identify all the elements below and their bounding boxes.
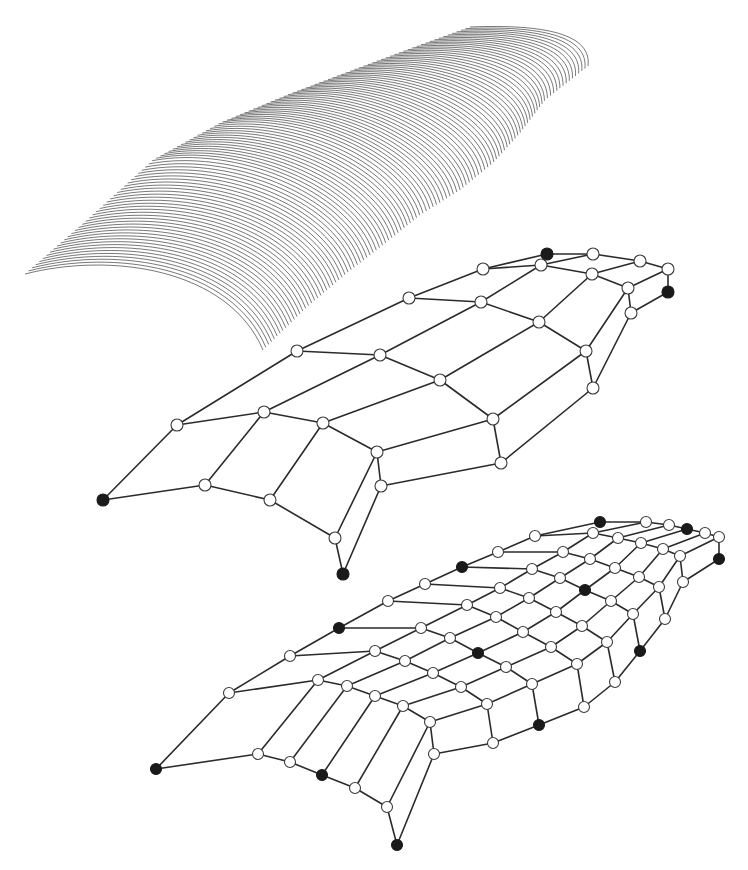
fine-mesh-control-point — [634, 572, 645, 583]
fine-mesh-control-point — [610, 563, 621, 574]
fine-mesh-control-point — [400, 656, 411, 667]
fine-mesh-control-point — [555, 573, 566, 584]
fine-mesh-control-point-filled — [317, 770, 328, 781]
fine-mesh-control-point — [350, 783, 361, 794]
coarse-mesh-control-point — [291, 345, 303, 357]
fine-mesh-control-point — [613, 533, 624, 544]
coarse-mesh-control-point — [495, 457, 507, 469]
coarse-mesh-control-point-filled — [541, 248, 553, 260]
coarse-mesh-control-point — [374, 349, 386, 361]
fine-mesh-control-point — [493, 547, 504, 558]
fine-mesh-control-point — [383, 596, 394, 607]
coarse-mesh-control-point — [199, 479, 211, 491]
coarse-mesh-control-point — [535, 259, 547, 271]
fine-mesh-control-point-filled — [580, 585, 591, 596]
fine-mesh-control-point — [579, 702, 590, 713]
fine-mesh-control-point — [678, 577, 689, 588]
coarse-mesh-control-point-filled — [337, 568, 349, 580]
fine-mesh-control-point — [527, 564, 538, 575]
fine-mesh-control-point-filled — [151, 764, 162, 775]
fine-mesh-control-point — [606, 596, 617, 607]
coarse-mesh-control-point — [587, 382, 599, 394]
coarse-mesh-control-point — [375, 480, 387, 492]
coarse-mesh-control-point — [587, 248, 599, 260]
figure-background — [0, 0, 748, 870]
coarse-mesh-control-point — [403, 292, 415, 304]
fine-mesh-control-point — [588, 528, 599, 539]
fine-mesh-control-point — [610, 677, 621, 688]
fine-mesh-control-point — [551, 607, 562, 618]
fine-mesh-control-point-filled — [392, 840, 403, 851]
fine-mesh-control-point — [462, 600, 473, 611]
coarse-mesh-control-point — [371, 446, 383, 458]
coarse-mesh-control-point-filled — [662, 286, 674, 298]
fine-mesh-control-point — [285, 651, 296, 662]
ruled-surface-diagram — [0, 0, 748, 870]
fine-mesh-control-point — [518, 627, 529, 638]
coarse-mesh-control-point — [477, 263, 489, 275]
fine-mesh-control-point — [628, 609, 639, 620]
fine-mesh-control-point — [428, 668, 439, 679]
fine-mesh-control-point — [658, 544, 669, 555]
fine-mesh-control-point — [370, 646, 381, 657]
fine-mesh-control-point — [491, 612, 502, 623]
coarse-mesh-control-point — [634, 255, 646, 267]
fine-mesh-control-point — [558, 547, 569, 558]
fine-mesh-control-point — [675, 551, 686, 562]
fine-mesh-control-point — [700, 528, 711, 539]
fine-mesh-control-point — [664, 520, 675, 531]
fine-mesh-control-point — [416, 623, 427, 634]
fine-mesh-control-point — [456, 682, 467, 693]
coarse-mesh-control-point — [329, 532, 341, 544]
fine-mesh-control-point — [370, 691, 381, 702]
fine-mesh-control-point — [445, 633, 456, 644]
fine-mesh-control-point-filled — [714, 554, 725, 565]
coarse-mesh-control-point — [580, 345, 592, 357]
fine-mesh-control-point — [602, 637, 613, 648]
fine-mesh-control-point — [313, 675, 324, 686]
fine-mesh-control-point — [641, 517, 652, 528]
fine-mesh-control-point — [420, 579, 431, 590]
fine-mesh-control-point-filled — [334, 623, 345, 634]
fine-mesh-control-point-filled — [595, 517, 606, 528]
fine-mesh-control-point — [636, 538, 647, 549]
fine-mesh-control-point — [572, 659, 583, 670]
fine-mesh-control-point — [425, 717, 436, 728]
fine-mesh-control-point — [342, 681, 353, 692]
coarse-mesh-control-point — [533, 316, 545, 328]
coarse-mesh-control-point — [475, 296, 487, 308]
coarse-mesh-control-point — [171, 419, 183, 431]
fine-mesh-control-point — [546, 642, 557, 653]
fine-mesh-control-point-filled — [473, 648, 484, 659]
coarse-mesh-control-point — [487, 413, 499, 425]
fine-mesh-control-point — [224, 688, 235, 699]
coarse-mesh-control-point — [258, 406, 270, 418]
fine-mesh-control-point — [488, 738, 499, 749]
fine-mesh-control-point — [714, 532, 725, 543]
fine-mesh-control-point — [654, 582, 665, 593]
fine-mesh-control-point — [482, 699, 493, 710]
fine-mesh-control-point — [495, 583, 506, 594]
fine-mesh-control-point — [524, 593, 535, 604]
fine-mesh-control-point — [382, 802, 393, 813]
fine-mesh-control-point — [253, 749, 264, 760]
coarse-mesh-control-point-filled — [97, 494, 109, 506]
fine-mesh-control-point-filled — [682, 524, 693, 535]
coarse-mesh-control-point — [662, 263, 674, 275]
fine-mesh-control-point — [530, 531, 541, 542]
fine-mesh-control-point — [577, 621, 588, 632]
fine-mesh-control-point-filled — [635, 646, 646, 657]
fine-mesh-control-point — [398, 701, 409, 712]
coarse-mesh-control-point — [317, 417, 329, 429]
fine-mesh-control-point — [501, 662, 512, 673]
fine-mesh-control-point — [585, 554, 596, 565]
fine-mesh-control-point — [527, 679, 538, 690]
fine-mesh-control-point — [429, 749, 440, 760]
fine-mesh-control-point-filled — [457, 562, 468, 573]
fine-mesh-control-point-filled — [534, 720, 545, 731]
fine-mesh-control-point — [285, 757, 296, 768]
coarse-mesh-control-point — [264, 494, 276, 506]
coarse-mesh-control-point — [434, 374, 446, 386]
coarse-mesh-control-point — [622, 282, 634, 294]
coarse-mesh-control-point — [625, 307, 637, 319]
